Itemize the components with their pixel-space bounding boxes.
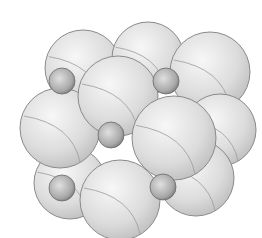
small-sphere — [49, 68, 75, 94]
large-sphere — [80, 160, 160, 238]
small-sphere — [150, 174, 176, 200]
crystal-lattice-model — [0, 0, 262, 238]
large-spheres — [20, 22, 256, 238]
small-sphere — [49, 175, 75, 201]
small-sphere — [98, 122, 124, 148]
small-sphere — [153, 68, 179, 94]
large-sphere — [132, 96, 216, 180]
